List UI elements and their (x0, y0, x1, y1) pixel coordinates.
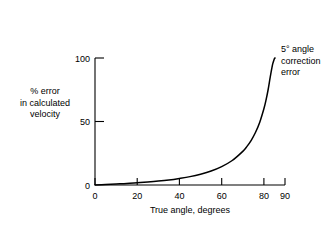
y-axis-title: % error in calculated velocity (6, 86, 84, 121)
x-tick-label-40: 40 (174, 191, 184, 201)
x-axis-title: True angle, degrees (95, 205, 285, 215)
x-tick-label-90: 90 (280, 191, 290, 201)
x-tick-label-80: 80 (259, 191, 269, 201)
chart-figure: 100 50 0 0 20 40 60 80 90 % error in cal… (0, 0, 334, 229)
x-tick-label-60: 60 (217, 191, 227, 201)
curve-annotation: 5° angle correction error (281, 44, 333, 79)
x-tick-label-0: 0 (92, 191, 97, 201)
x-tick-label-20: 20 (132, 191, 142, 201)
y-tick-label-0: 0 (85, 181, 90, 191)
y-tick-label-100: 100 (75, 54, 90, 64)
